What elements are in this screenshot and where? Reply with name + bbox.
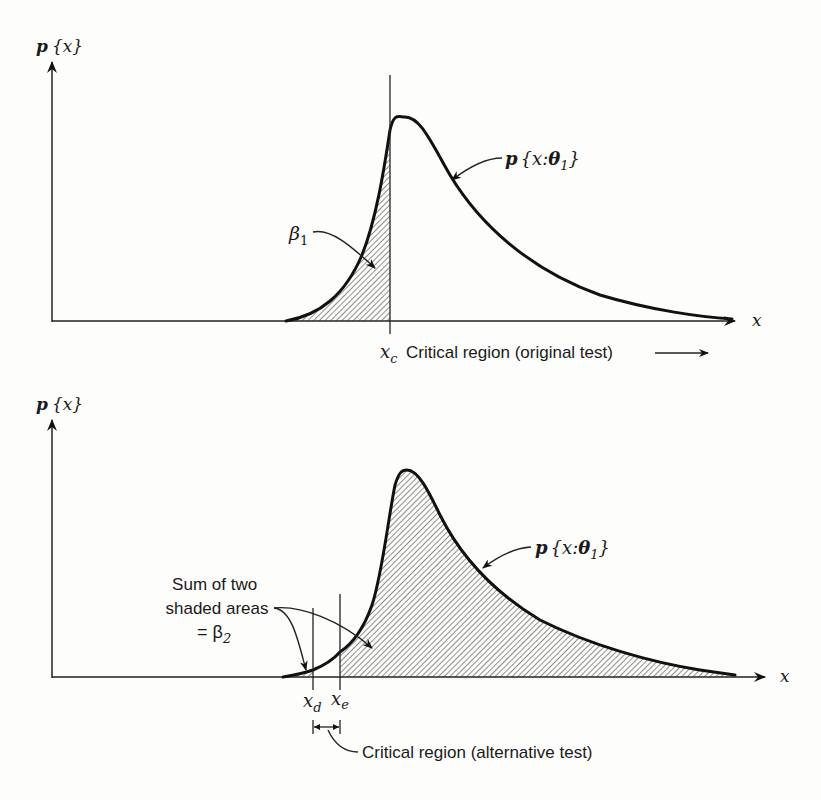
right-shaded-area (340, 470, 735, 677)
top-panel: p{x} x β1 p{x:θ1} xc Critical region (or… (36, 36, 762, 366)
top-x-axis-label: x (752, 310, 762, 330)
top-curve-label: p{x:θ1} (505, 148, 580, 173)
bottom-curve-label: p{x:θ1} (535, 537, 610, 562)
top-curve-leader-arrow (452, 158, 502, 180)
diagram-canvas: p{x} x β1 p{x:θ1} xc Critical region (or… (0, 0, 821, 800)
alternative-critical-region-text: Critical region (alternative test) (362, 743, 593, 762)
sum-shaded-areas-annotation: Sum of two shaded areas (165, 575, 268, 618)
critical-interval-bracket (313, 720, 340, 734)
beta2-label: = β2 (197, 622, 231, 646)
bottom-y-axis-label: p{x} (36, 394, 83, 414)
original-critical-region-text: Critical region (original test) (406, 343, 613, 362)
left-area-leader-arrow (274, 608, 306, 670)
xd-label: xd (303, 690, 321, 715)
top-y-axis-label: p{x} (36, 36, 83, 56)
alt-critical-region-leader (328, 730, 358, 752)
bottom-x-axis-label: x (780, 666, 790, 686)
beta1-label: β1 (288, 222, 308, 248)
bottom-panel: p{x} x xd xe Critical region (alternativ… (36, 394, 790, 762)
xc-label: xc (380, 341, 398, 366)
xe-label: xe (331, 688, 349, 712)
bottom-curve-leader-arrow (483, 547, 531, 568)
